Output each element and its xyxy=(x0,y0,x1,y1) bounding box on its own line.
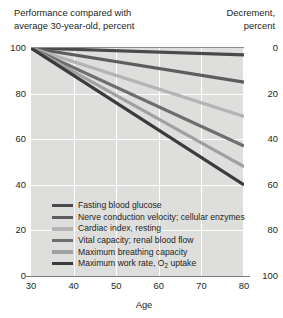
legend-item: Vital capacity; renal blood flow xyxy=(52,235,242,247)
x-axis-title-text: Age xyxy=(136,299,153,310)
legend-item-label: Nerve conduction velocity; cellular enzy… xyxy=(78,213,245,222)
y-axis-left-tick-label: 40 xyxy=(0,179,26,190)
x-axis-tick-label: 70 xyxy=(188,280,214,291)
chart-title-right: Decrement, percent xyxy=(185,6,275,32)
legend-item-label: Maximum breathing capacity xyxy=(78,248,187,257)
legend: Fasting blood glucoseNerve conduction ve… xyxy=(52,200,242,270)
legend-item: Maximum breathing capacity xyxy=(52,246,242,258)
legend-item-label: Cardiac index, resting xyxy=(78,224,161,233)
legend-item-label: Vital capacity; renal blood flow xyxy=(78,236,193,245)
x-axis-rule xyxy=(25,276,250,277)
series-line xyxy=(31,48,244,185)
y-axis-right-tick-label: 60 xyxy=(252,179,278,190)
y-axis-right-tick-label: 0 xyxy=(252,42,278,53)
chart-title-right-line2: percent xyxy=(185,19,275,32)
legend-item: Nerve conduction velocity; cellular enzy… xyxy=(52,212,242,224)
legend-item: Cardiac index, resting xyxy=(52,223,242,235)
x-axis-tick-label: 60 xyxy=(146,280,172,291)
y-axis-left-tick-label: 60 xyxy=(0,133,26,144)
series-line xyxy=(31,48,244,146)
y-axis-right-tick-label: 20 xyxy=(252,88,278,99)
legend-color-swatch xyxy=(52,250,73,253)
x-axis-tick-label: 80 xyxy=(231,280,257,291)
chart-title-right-line1: Decrement, xyxy=(185,6,275,19)
x-axis-tick-label: 30 xyxy=(18,280,44,291)
performance-decline-chart: Performance compared with average 30-yea… xyxy=(0,0,283,318)
y-axis-left-tick-label: 80 xyxy=(0,88,26,99)
legend-color-swatch xyxy=(52,262,73,265)
x-axis-title: Age xyxy=(0,299,283,310)
chart-title-left-line1: Performance compared with xyxy=(14,6,189,19)
legend-color-swatch xyxy=(52,216,73,219)
y-axis-right-tick-label: 40 xyxy=(252,133,278,144)
legend-color-swatch xyxy=(52,239,73,242)
x-axis-tick-label: 50 xyxy=(103,280,129,291)
legend-color-swatch xyxy=(52,227,73,230)
legend-item: Maximum work rate, O2 uptake xyxy=(52,258,242,270)
chart-title-left: Performance compared with average 30-yea… xyxy=(14,6,189,32)
legend-item: Fasting blood glucose xyxy=(52,200,242,212)
legend-item-label: Fasting blood glucose xyxy=(78,201,162,210)
y-axis-right-tick-label: 80 xyxy=(252,224,278,235)
chart-title-left-line2: average 30-year-old, percent xyxy=(14,19,189,32)
y-axis-left-tick-label: 100 xyxy=(0,42,26,53)
x-axis-tick-label: 40 xyxy=(61,280,87,291)
legend-color-swatch xyxy=(52,204,73,207)
y-axis-left-tick-label: 20 xyxy=(0,224,26,235)
legend-item-label: Maximum work rate, O2 uptake xyxy=(78,259,196,268)
